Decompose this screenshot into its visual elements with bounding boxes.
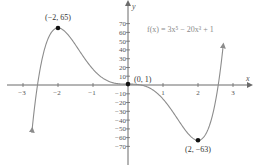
x-axis-label: x (245, 74, 250, 83)
local-max-label: (−2, 65) (45, 13, 71, 22)
y-tick-label: −50 (115, 125, 126, 133)
local-max-point (56, 26, 61, 31)
x-tick-label: 3 (231, 89, 235, 97)
y-tick-label: 20 (119, 64, 127, 72)
function-graph: x y −3 −2 −1 1 2 3 70 60 50 4 (0, 0, 257, 166)
x-tick-label: −3 (18, 89, 26, 97)
x-tick-label: 2 (196, 89, 200, 97)
x-tick-label: −1 (88, 89, 96, 97)
y-tick-label: −70 (115, 143, 126, 151)
y-tick-label: 30 (119, 55, 127, 63)
y-tick-label: −20 (115, 99, 126, 107)
y-axis-label: y (131, 2, 136, 11)
y-tick-label: −10 (115, 90, 126, 98)
y-tick-label: 70 (119, 20, 127, 28)
y-tick-label: −30 (115, 108, 126, 116)
inflection-point-label: (0, 1) (134, 75, 152, 84)
function-formula: f(x) = 3x⁵ − 20x³ + 1 (147, 25, 214, 34)
inflection-point (126, 82, 131, 87)
y-tick-label: 40 (119, 46, 127, 54)
x-tick-label: −2 (53, 89, 61, 97)
y-tick-label: −60 (115, 134, 126, 142)
x-tick-labels: −3 −2 −1 1 2 3 (18, 89, 235, 97)
y-tick-label: 10 (119, 73, 127, 81)
y-tick-label: 60 (119, 29, 127, 37)
local-min-label: (2, −63) (185, 145, 211, 154)
y-tick-label: 50 (119, 38, 127, 46)
local-min-point (196, 138, 201, 143)
x-tick-label: 1 (161, 89, 165, 97)
y-tick-label: −40 (115, 117, 126, 125)
